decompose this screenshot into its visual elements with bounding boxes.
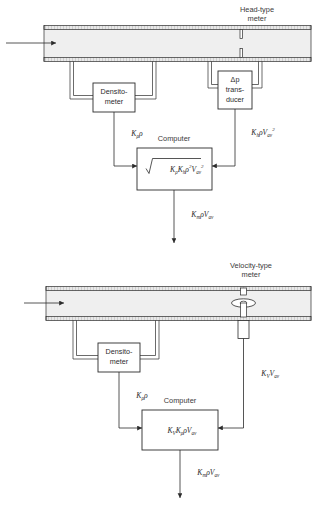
top-signal-label-dp: KhρVav2: [238, 124, 284, 138]
bottom-signal-line-density: [119, 372, 142, 428]
top-pipe: [44, 26, 311, 62]
top-signal-line-density: [114, 112, 137, 166]
top-diagram-head-type-meter: Head-type meter Densito-: [6, 5, 311, 243]
bottom-computer-title: Computer: [164, 396, 197, 405]
bottom-pipe: [46, 287, 311, 321]
bottom-signal-label-velocity: KVVav: [248, 369, 289, 380]
dp-transducer-label-line2: trans-: [226, 85, 245, 94]
bottom-densitometer-box: Densito- meter: [98, 343, 140, 372]
top-densitometer-box: Densito- meter: [93, 83, 135, 112]
bottom-output-label: KmρVav: [184, 468, 229, 479]
top-densitometer-label-line2: meter: [105, 97, 124, 106]
dp-transducer-label-line3: ducer: [226, 95, 245, 104]
figure-canvas: Head-type meter Densito-: [0, 0, 323, 511]
dp-transducer-label-line1: Δp: [231, 75, 240, 84]
bottom-signal-line-velocity: [218, 345, 244, 428]
top-output-label: KmρVav: [178, 210, 223, 221]
top-densitometer-label-line1: Densito-: [101, 87, 128, 96]
head-type-meter-title-line1: Head-type: [240, 5, 274, 14]
top-computer-box: KρKhρ2Vav2: [137, 148, 217, 190]
top-signal-line-dp: [212, 109, 235, 166]
bottom-signal-label-density: Kρρ: [123, 391, 157, 401]
top-signal-label-density: Kρρ: [118, 129, 152, 139]
velocity-type-meter-title-line2: meter: [242, 270, 261, 279]
bottom-diagram-velocity-type-meter: Velocity-type meter: [24, 261, 311, 498]
bottom-densitometer-label-line1: Densito-: [106, 347, 133, 356]
head-type-meter-title-line2: meter: [248, 14, 267, 23]
flow-meter-diagram: Head-type meter Densito-: [0, 0, 323, 511]
bottom-computer-box: KVKρρVav: [142, 410, 218, 450]
bottom-densitometer-label-line2: meter: [110, 357, 129, 366]
dp-transducer-box: Δp trans- ducer: [218, 71, 252, 109]
top-computer-title: Computer: [158, 134, 191, 143]
velocity-type-meter-title-line1: Velocity-type: [230, 261, 272, 270]
